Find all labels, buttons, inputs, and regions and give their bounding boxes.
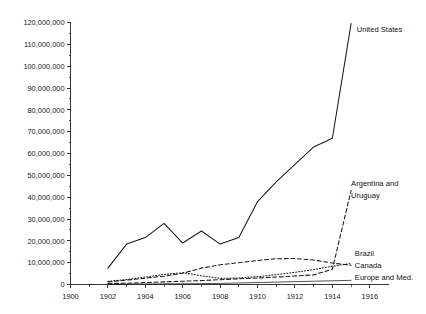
y-axis-tick-label: 120,000,000	[23, 18, 64, 27]
x-axis-tick-label: 1914	[324, 292, 340, 301]
x-axis-tick-labels: 190019021904190619081910191219141916	[62, 292, 378, 301]
x-axis-tick-label: 1910	[249, 292, 265, 301]
y-axis-tick-label: 70,000,000	[28, 127, 65, 136]
series-annotation-label: Europe and Med.	[355, 273, 413, 282]
y-axis-tick-label: 50,000,000	[28, 171, 65, 180]
y-axis-tick-labels: 010,000,00020,000,00030,000,00040,000,00…	[23, 18, 64, 289]
chart-tick-marks	[67, 23, 370, 289]
chart-canvas: 010,000,00020,000,00030,000,00040,000,00…	[0, 0, 426, 314]
x-axis-tick-label: 1912	[287, 292, 303, 301]
series-annotation-label: Uruguay	[351, 191, 380, 200]
series-annotation-label: Canada	[355, 261, 382, 270]
series-annotation-label: Argentina and	[351, 179, 398, 188]
x-axis-tick-label: 1908	[212, 292, 228, 301]
line-chart-figure: 010,000,00020,000,00030,000,00040,000,00…	[0, 0, 426, 314]
y-axis-tick-label: 60,000,000	[28, 149, 65, 158]
series-annotation-label: Brazil	[355, 249, 374, 258]
x-axis-tick-label: 1900	[62, 292, 78, 301]
chart-series-labels: United StatesArgentina andUruguayBrazilC…	[351, 25, 413, 282]
y-axis-tick-label: 20,000,000	[28, 237, 65, 246]
x-axis-tick-label: 1916	[362, 292, 378, 301]
y-axis-tick-label: 90,000,000	[28, 84, 65, 93]
y-axis-tick-label: 110,000,000	[24, 40, 65, 49]
x-axis-tick-label: 1906	[175, 292, 191, 301]
y-axis-tick-label: 80,000,000	[28, 106, 65, 115]
x-axis-tick-label: 1904	[137, 292, 153, 301]
y-axis-tick-label: 10,000,000	[28, 258, 65, 267]
y-axis-tick-label: 40,000,000	[28, 193, 65, 202]
chart-series-lines	[108, 24, 351, 285]
x-axis-tick-label: 1902	[100, 292, 116, 301]
series-line-united-states	[108, 24, 351, 269]
chart-axes	[71, 22, 389, 285]
series-annotation-label: United States	[357, 25, 403, 34]
y-axis-tick-label: 0	[60, 280, 64, 289]
y-axis-tick-label: 100,000,000	[23, 62, 64, 71]
y-axis-tick-label: 30,000,000	[28, 215, 65, 224]
